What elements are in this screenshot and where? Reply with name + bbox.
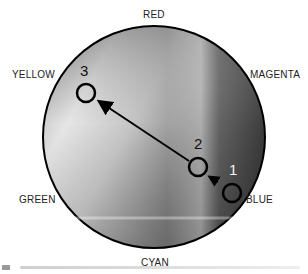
caption-text-illegible: [20, 266, 300, 269]
point-1-label: 1: [229, 161, 237, 178]
label-red: RED: [143, 9, 165, 20]
caption-bullet: [2, 265, 10, 270]
label-green: GREEN: [19, 194, 56, 205]
point-2-label: 2: [194, 135, 202, 152]
label-magenta: MAGENTA: [250, 69, 300, 80]
label-yellow: YELLOW: [12, 69, 55, 80]
color-wheel-diagram: [0, 0, 308, 274]
point-3-label: 3: [80, 62, 88, 79]
label-blue: BLUE: [246, 194, 273, 205]
